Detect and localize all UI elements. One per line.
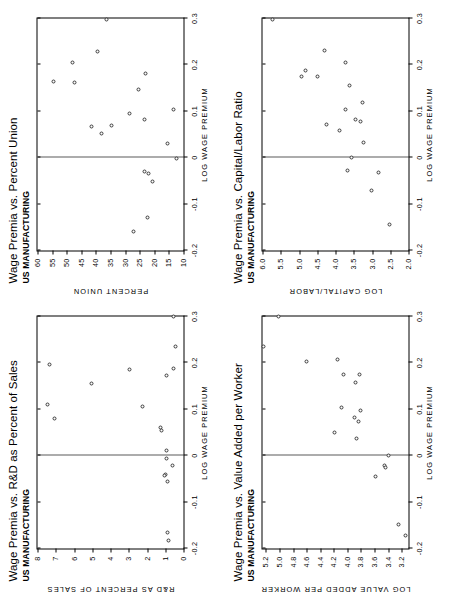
x-axis-tick <box>408 110 412 111</box>
data-point <box>322 48 326 52</box>
y-axis-tick-label: 5.0 <box>294 258 303 288</box>
x-axis-tick <box>183 63 187 64</box>
data-point <box>387 222 391 226</box>
data-point <box>131 229 135 233</box>
data-point <box>347 83 351 87</box>
x-axis-tick <box>408 156 412 157</box>
y-axis-title: LOG VALUE ADDED PER WORKER <box>260 584 410 593</box>
x-axis-title: LOG WAGE PREMIUM <box>199 316 208 548</box>
y-axis-tick <box>306 548 307 552</box>
data-point <box>403 533 407 537</box>
data-point <box>349 155 353 159</box>
data-point <box>150 179 154 183</box>
x-axis-tick-inner <box>262 315 265 316</box>
data-point <box>164 373 168 377</box>
y-axis-tick-label: 4.0 <box>331 258 340 288</box>
y-axis-tick <box>110 250 111 254</box>
data-point <box>99 131 103 135</box>
x-axis-tick <box>408 315 412 316</box>
x-axis-tick-label: -0.1 <box>414 495 423 509</box>
x-axis-tick-inner <box>262 501 265 502</box>
data-point <box>109 123 113 127</box>
x-axis-tick-inner <box>37 408 40 409</box>
y-axis-tick <box>333 548 334 552</box>
y-axis-tick <box>81 250 82 254</box>
panel-value-added: Wage Premia vs. Value Added per Worker U… <box>225 298 449 595</box>
data-point <box>369 188 373 192</box>
data-point <box>373 474 377 478</box>
panel-subtitle: US MANUFACTURING <box>20 190 30 283</box>
y-axis-tick-label: 5.2 <box>261 556 270 586</box>
data-point <box>143 71 147 75</box>
data-point <box>376 170 380 174</box>
data-point <box>352 415 356 419</box>
data-point <box>315 74 319 78</box>
x-axis-tick-inner <box>262 63 265 64</box>
data-point <box>343 107 347 111</box>
y-axis-tick <box>147 548 148 552</box>
x-axis-tick-label: 0.1 <box>189 403 198 414</box>
zero-reference-line <box>262 156 408 157</box>
plot-area: -0.2-0.100.10.20.32.02.53.03.54.04.55.05… <box>261 17 409 251</box>
y-axis-title: PERCENT UNION <box>72 286 147 295</box>
x-axis-tick-label: 0.2 <box>414 357 423 368</box>
y-axis-tick <box>168 250 169 254</box>
data-point <box>142 117 146 121</box>
x-axis-tick <box>408 203 412 204</box>
y-axis-tick <box>279 548 280 552</box>
x-axis-tick <box>183 501 187 502</box>
x-axis-tick-label: -0.2 <box>414 541 423 555</box>
y-axis-tick-label: 5 <box>87 556 96 586</box>
y-axis-title: LOG CAPITAL/LABOR <box>288 286 382 295</box>
x-axis-tick-label: -0.2 <box>189 243 198 257</box>
data-point <box>164 456 168 460</box>
x-axis-tick-label: 0.3 <box>189 311 198 322</box>
y-axis-tick-label: 0 <box>179 556 188 586</box>
y-axis-tick-label: 40 <box>91 258 100 288</box>
x-axis-title: LOG WAGE PREMIUM <box>424 18 433 250</box>
data-point <box>261 344 265 348</box>
data-point <box>356 419 360 423</box>
y-axis-tick-label: 7 <box>51 556 60 586</box>
x-axis-tick <box>408 17 412 18</box>
y-axis-tick-label: 4.5 <box>312 258 321 288</box>
y-axis-tick-label: 3.8 <box>356 556 365 586</box>
x-axis-tick-inner <box>262 547 265 548</box>
data-point <box>353 380 357 384</box>
x-axis-tick-inner <box>262 361 265 362</box>
panel-title: Wage Premia vs. R&D as Percent of Sales <box>6 360 18 581</box>
x-axis-tick <box>183 315 187 316</box>
data-point <box>142 169 146 173</box>
x-axis-tick-label: -0.1 <box>189 495 198 509</box>
x-axis-tick-inner <box>262 203 265 204</box>
y-axis-tick-label: 4.6 <box>302 556 311 586</box>
y-axis-tick-label: 6.0 <box>258 258 267 288</box>
y-axis-tick-label: 4.0 <box>342 556 351 586</box>
data-point <box>173 344 177 348</box>
y-axis-tick-label: 6 <box>69 556 78 586</box>
data-point <box>358 119 362 123</box>
data-point <box>343 60 347 64</box>
data-point <box>165 530 169 534</box>
x-axis-tick-label: 0 <box>189 155 198 159</box>
data-point <box>127 367 131 371</box>
x-axis-tick <box>408 408 412 409</box>
panel-capital-labor: Wage Premia vs. Capital/Labor Ratio US M… <box>225 0 449 297</box>
y-axis-tick <box>183 250 184 254</box>
data-point <box>353 117 357 121</box>
data-point <box>51 79 55 83</box>
x-axis-tick-label: 0 <box>414 453 423 457</box>
data-point <box>164 448 168 452</box>
y-axis-tick-label: 5.5 <box>276 258 285 288</box>
panel-subtitle: US MANUFACTURING <box>20 488 30 581</box>
data-point <box>47 362 51 366</box>
data-point <box>303 68 307 72</box>
y-axis-tick-label: 60 <box>33 258 42 288</box>
data-point <box>171 107 175 111</box>
x-axis-tick <box>183 203 187 204</box>
y-axis-tick <box>74 548 75 552</box>
y-axis-tick <box>125 250 126 254</box>
y-axis-tick-label: 35 <box>106 258 115 288</box>
x-axis-tick-label: 0.1 <box>414 105 423 116</box>
plot-area: -0.2-0.100.10.20.31015202530354045505560… <box>36 17 184 251</box>
